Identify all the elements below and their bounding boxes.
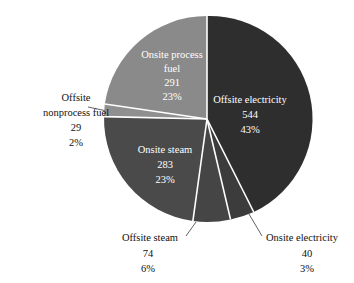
label-offsite-nonprocess-fuel-value: 29 <box>71 122 82 133</box>
pie-slices <box>104 16 313 222</box>
label-onsite-process-fuel-line2: fuel <box>164 63 180 74</box>
pie-chart-figure: Offsite electricity 544 43% Onsite proce… <box>0 0 354 283</box>
label-onsite-electricity-percent: 3% <box>300 263 314 274</box>
label-onsite-steam-value: 283 <box>157 159 173 170</box>
pie-chart-svg: Offsite electricity 544 43% Onsite proce… <box>0 0 354 283</box>
label-offsite-nonprocess-fuel-line1: Offsite <box>62 92 91 103</box>
label-onsite-steam-line1: Onsite steam <box>138 144 193 155</box>
label-offsite-steam-value: 74 <box>143 248 154 259</box>
label-offsite-electricity-percent: 43% <box>240 124 260 135</box>
label-offsite-steam-line1: Offsite steam <box>122 232 178 243</box>
label-onsite-electricity-line1: Onsite electricity <box>266 232 339 243</box>
label-offsite-nonprocess-fuel-percent: 2% <box>69 137 83 148</box>
label-offsite-steam-percent: 6% <box>141 263 155 274</box>
label-onsite-process-fuel-percent: 23% <box>162 91 182 102</box>
label-onsite-process-fuel-line1: Onsite process <box>141 49 203 60</box>
label-offsite-electricity-value: 544 <box>242 109 259 120</box>
label-offsite-nonprocess-fuel-line2: nonprocess fuel <box>43 107 109 118</box>
label-offsite-electricity-line1: Offsite electricity <box>213 94 287 105</box>
label-onsite-process-fuel-value: 291 <box>164 77 180 88</box>
label-onsite-electricity-value: 40 <box>302 248 313 259</box>
label-onsite-steam-percent: 23% <box>155 174 175 185</box>
